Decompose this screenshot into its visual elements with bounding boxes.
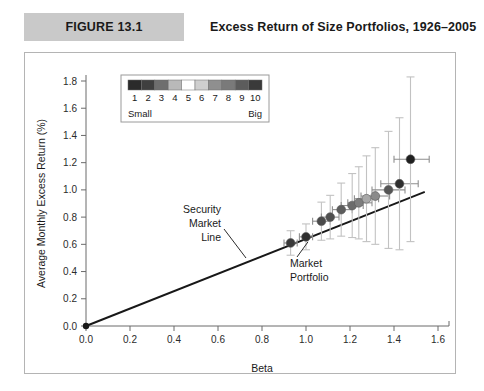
legend-swatch xyxy=(141,80,154,90)
data-point[interactable] xyxy=(317,217,326,226)
legend-bin-label: 7 xyxy=(212,92,217,103)
legend-swatch xyxy=(208,80,221,90)
data-point[interactable] xyxy=(286,239,295,248)
origin-point xyxy=(83,323,89,329)
data-point[interactable] xyxy=(326,213,335,222)
figure-header: FIGURE 13.1 Excess Return of Size Portfo… xyxy=(0,12,484,42)
figure-number-label: FIGURE 13.1 xyxy=(65,20,142,34)
y-axis-tick-label: 1.2 xyxy=(63,157,77,168)
legend-swatch xyxy=(155,80,168,90)
security-market-line-annotation: Security xyxy=(183,203,222,215)
security-market-line-annotation: Market xyxy=(189,217,221,229)
legend-bin-label: 5 xyxy=(186,92,191,103)
legend-swatch xyxy=(182,80,195,90)
legend-swatch xyxy=(195,80,208,90)
data-point[interactable] xyxy=(384,185,393,194)
x-axis-tick-label: 0.0 xyxy=(79,334,93,345)
x-axis-tick-label: 1.2 xyxy=(343,334,357,345)
x-axis-tick-label: 1.6 xyxy=(431,334,445,345)
legend-swatch xyxy=(235,80,248,90)
x-axis-tick-label: 0.8 xyxy=(255,334,269,345)
y-axis-tick-label: 1.6 xyxy=(63,103,77,114)
legend-bin-label: 8 xyxy=(226,92,231,103)
data-point[interactable] xyxy=(337,205,346,214)
security-market-line-leader xyxy=(224,229,246,258)
y-axis-tick-label: 1.0 xyxy=(63,184,77,195)
legend-bin-label: 3 xyxy=(159,92,164,103)
legend-swatch xyxy=(128,80,141,90)
legend-bin-label: 9 xyxy=(239,92,244,103)
security-market-line xyxy=(86,192,425,326)
legend-bin-label: 1 xyxy=(132,92,137,103)
data-point[interactable] xyxy=(371,192,380,201)
x-axis-title: Beta xyxy=(251,362,273,373)
data-point[interactable] xyxy=(395,179,404,188)
data-point[interactable] xyxy=(354,198,363,207)
legend-bin-label: 2 xyxy=(145,92,150,103)
legend-swatch xyxy=(249,80,262,90)
y-axis-tick-label: 1.8 xyxy=(63,76,77,87)
y-axis-tick-label: 0.4 xyxy=(63,266,77,277)
x-axis-tick-label: 0.2 xyxy=(123,334,137,345)
legend-swatch xyxy=(168,80,181,90)
scatter-plot: 0.00.20.40.60.81.01.21.41.61.80.00.20.40… xyxy=(25,53,455,373)
x-axis-tick-label: 1.0 xyxy=(299,334,313,345)
legend-small-label: Small xyxy=(128,108,152,119)
x-axis-tick-label: 1.4 xyxy=(387,334,401,345)
data-point[interactable] xyxy=(302,232,311,241)
y-axis-title: Average Monthly Excess Return (%) xyxy=(35,119,47,288)
x-axis-tick-label: 0.4 xyxy=(167,334,181,345)
legend-bin-label: 10 xyxy=(250,92,261,103)
y-axis-tick-label: 0.2 xyxy=(63,293,77,304)
figure-number-badge: FIGURE 13.1 xyxy=(24,13,184,41)
y-axis-tick-label: 1.4 xyxy=(63,130,77,141)
legend-bin-label: 6 xyxy=(199,92,204,103)
x-axis-tick-label: 0.6 xyxy=(211,334,225,345)
figure-title: Excess Return of Size Portfolios, 1926–2… xyxy=(210,20,476,34)
legend-bin-label: 4 xyxy=(172,92,177,103)
y-axis-tick-label: 0.6 xyxy=(63,239,77,250)
data-point[interactable] xyxy=(362,194,371,203)
y-axis-tick-label: 0.0 xyxy=(63,321,77,332)
data-point[interactable] xyxy=(406,155,415,164)
legend-big-label: Big xyxy=(248,108,262,119)
market-portfolio-annotation: Portfolio xyxy=(290,271,329,283)
chart-frame: 0.00.20.40.60.81.01.21.41.61.80.00.20.40… xyxy=(24,52,456,374)
y-axis-tick-label: 0.8 xyxy=(63,212,77,223)
market-portfolio-annotation: Market xyxy=(290,257,322,269)
security-market-line-annotation: Line xyxy=(201,231,221,243)
legend-swatch xyxy=(222,80,235,90)
